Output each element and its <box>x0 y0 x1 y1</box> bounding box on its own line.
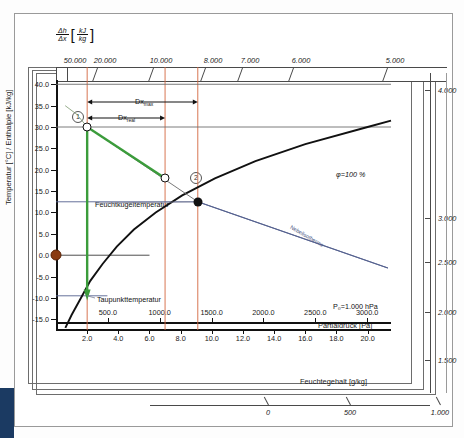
ratio-tick-label: 7.000 <box>241 56 260 65</box>
barometric-pressure-label: P₀=1.000 hPa <box>333 302 378 311</box>
ratio-tick-label: 20.000 <box>94 56 117 65</box>
dh-numerator: Δh <box>56 27 69 35</box>
pressure-tick-label: 1500.0 <box>200 308 222 317</box>
ratio-tick-label: 50.000 <box>64 56 87 65</box>
x-tick-label: 20.0 <box>361 334 375 343</box>
marker-label-2: 2 <box>190 172 202 184</box>
y-tick-label: 20.0 <box>35 165 49 174</box>
right-scale-outer <box>446 73 447 393</box>
x-axis-label: Feuchtegehalt [g/kg] <box>300 377 367 386</box>
x-tick-label: 6.0 <box>144 334 154 343</box>
marker-point-1[interactable] <box>83 123 92 132</box>
enthalpy-ratio-label: Δh Δx [ kJ kg ] <box>56 27 94 43</box>
y-tick-label: 35.0 <box>35 101 49 110</box>
y-tick-label: 10.0 <box>35 208 49 217</box>
dx-max-label: Dxmax <box>135 97 153 107</box>
marker-zero-point[interactable] <box>51 250 62 261</box>
y-axis <box>56 80 58 330</box>
marker-point-2[interactable] <box>161 174 170 183</box>
phi-100-label: φ=100 % <box>336 170 365 179</box>
right-tick <box>425 218 430 219</box>
left-accent-bar <box>0 388 14 438</box>
bracket-left: [ <box>71 27 75 43</box>
y-tick <box>51 319 56 320</box>
y-tick <box>51 277 56 278</box>
diagram-canvas: Δh Δx [ kJ kg ] 50.00020.00010.0008.0007… <box>0 0 464 438</box>
pressure-tick <box>212 318 213 322</box>
pressure-tick-label: 500.0 <box>99 308 117 317</box>
y-tick <box>51 212 56 213</box>
y-tick <box>51 170 56 171</box>
unit-denominator: kg <box>77 35 88 42</box>
y-tick <box>51 106 56 107</box>
x-tick-label: 16.0 <box>298 334 312 343</box>
right-tick <box>425 90 430 91</box>
y-tick <box>51 148 56 149</box>
y-tick <box>51 191 56 192</box>
wet-bulb-label: Feuchtkugeltemperatur <box>95 200 169 209</box>
y-tick <box>51 84 56 85</box>
y-axis-label: Temperatur [°C] / Enthalpie [kJ/kg] <box>4 90 13 205</box>
y-tick-label: 5.0 <box>39 229 49 238</box>
y-tick-label: -15.0 <box>32 315 49 324</box>
right-tick <box>425 312 430 313</box>
bottom-scale-axis: 05001.000 <box>150 405 430 406</box>
y-tick-label: 30.0 <box>35 123 49 132</box>
ratio-tick-label: 10.000 <box>150 56 173 65</box>
y-tick <box>51 234 56 235</box>
dx-denominator: Δx <box>56 35 68 42</box>
bracket-right: ] <box>90 27 94 43</box>
dew-point-label: Taupunkttemperatur <box>97 295 161 304</box>
x-tick-label: 14.0 <box>267 334 281 343</box>
y-tick-label: -10.0 <box>32 293 49 302</box>
bottom-tick-label: 1.000 <box>431 408 449 417</box>
pressure-tick-label: 2000.0 <box>252 308 274 317</box>
marker-label-1: 1 <box>72 111 84 123</box>
right-tick <box>425 262 430 263</box>
right-scale-axis: 4.0003.0002.5002.0001.500 <box>430 73 431 393</box>
pressure-tick <box>108 318 109 322</box>
ratio-tick-label: 8.000 <box>204 56 223 65</box>
pressure-tick <box>160 318 161 322</box>
x-tick-label: 2.0 <box>82 334 92 343</box>
y-tick-label: -5.0 <box>36 272 49 281</box>
ratio-tick-label: 6.000 <box>292 56 311 65</box>
y-tick-label: 15.0 <box>35 187 49 196</box>
x-tick-label: 18.0 <box>329 334 343 343</box>
pressure-tick <box>315 318 316 322</box>
bottom-tick-label: 500 <box>344 408 356 417</box>
x-tick-label: 8.0 <box>176 334 186 343</box>
bottom-tick-label: 0 <box>266 408 270 417</box>
dx-real-label: Dxreal <box>118 113 135 123</box>
y-tick <box>51 298 56 299</box>
partial-pressure-label: Partialdruck [Pa] <box>318 321 372 330</box>
unit-numerator: kJ <box>77 27 88 35</box>
y-tick <box>51 127 56 128</box>
y-tick-label: 25.0 <box>35 144 49 153</box>
y-tick-label: 0.0 <box>39 251 49 260</box>
right-tick <box>425 360 430 361</box>
pressure-tick-label: 1000.0 <box>149 308 171 317</box>
pressure-tick <box>263 318 264 322</box>
x-tick-label: 10.0 <box>205 334 219 343</box>
x-tick-label: 4.0 <box>113 334 123 343</box>
x-tick-label: 12.0 <box>236 334 250 343</box>
ratio-tick-label: 5.000 <box>386 56 405 65</box>
y-tick-label: 40.0 <box>35 80 49 89</box>
marker-saturation-point[interactable] <box>193 197 202 206</box>
pressure-tick-label: 2500.0 <box>304 308 326 317</box>
